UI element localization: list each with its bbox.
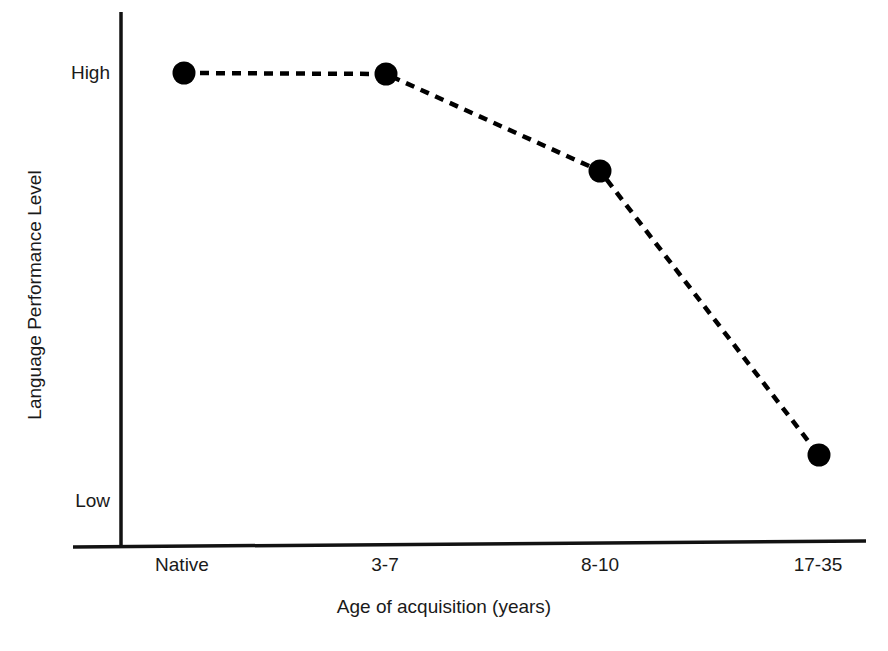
x-tick-label-native: Native — [155, 555, 209, 574]
x-tick-label-3-7: 3-7 — [371, 555, 398, 574]
x-tick-label-8-10: 8-10 — [581, 555, 619, 574]
y-tick-label-high: High — [71, 63, 110, 82]
line-chart-plot — [0, 0, 888, 651]
chart-figure: Language Performance Level High Low Nati… — [0, 0, 888, 651]
x-axis-line — [73, 541, 866, 547]
y-axis-title: Language Performance Level — [24, 170, 46, 419]
x-tick-label-17-35: 17-35 — [794, 555, 843, 574]
data-point-3-7 — [375, 63, 398, 86]
y-tick-label-low: Low — [75, 491, 110, 510]
data-point-17-35 — [808, 444, 831, 467]
data-line-dashed — [184, 73, 819, 455]
x-axis-title: Age of acquisition (years) — [0, 596, 888, 618]
data-point-8-10 — [589, 160, 612, 183]
data-point-native — [173, 62, 196, 85]
